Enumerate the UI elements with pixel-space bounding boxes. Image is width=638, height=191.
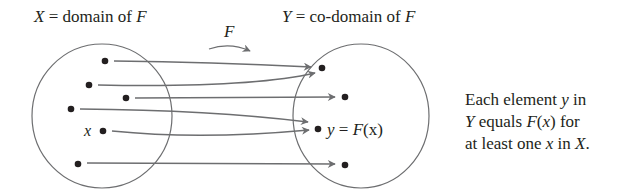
codomain-point [342, 94, 349, 101]
domain-points [68, 58, 130, 168]
domain-point [68, 106, 75, 113]
description-line-3: at least one x in X. [465, 133, 590, 155]
function-label: F [223, 22, 235, 41]
element-y-label: y = F(x) [325, 120, 383, 139]
domain-point [123, 95, 130, 102]
mapping-arrows [80, 61, 335, 164]
description-line-2: Y equals F(x) for [465, 111, 590, 133]
mapping-arrow [87, 163, 335, 164]
function-arrow-icon [209, 46, 250, 51]
codomain-points [315, 65, 349, 169]
mapping-arrow [114, 61, 311, 67]
codomain-set-circle [293, 44, 429, 188]
mapping-arrow [80, 109, 308, 122]
mapping-arrow [135, 97, 335, 98]
codomain-point-y [315, 126, 322, 133]
domain-point [102, 58, 109, 65]
onto-description: Each element y in Y equals F(x) for at l… [465, 89, 590, 155]
domain-point [86, 82, 93, 89]
domain-title: X = domain of F [33, 7, 147, 26]
codomain-point [342, 162, 349, 169]
domain-set-circle [32, 44, 172, 188]
domain-point [75, 161, 82, 168]
codomain-title: Y = co-domain of F [282, 7, 416, 26]
codomain-point [319, 65, 326, 72]
mapping-arrow [112, 130, 309, 135]
description-line-1: Each element y in [465, 89, 590, 111]
element-x-label: x [83, 122, 91, 139]
mapping-arrow [98, 73, 315, 86]
domain-point-x [100, 128, 107, 135]
